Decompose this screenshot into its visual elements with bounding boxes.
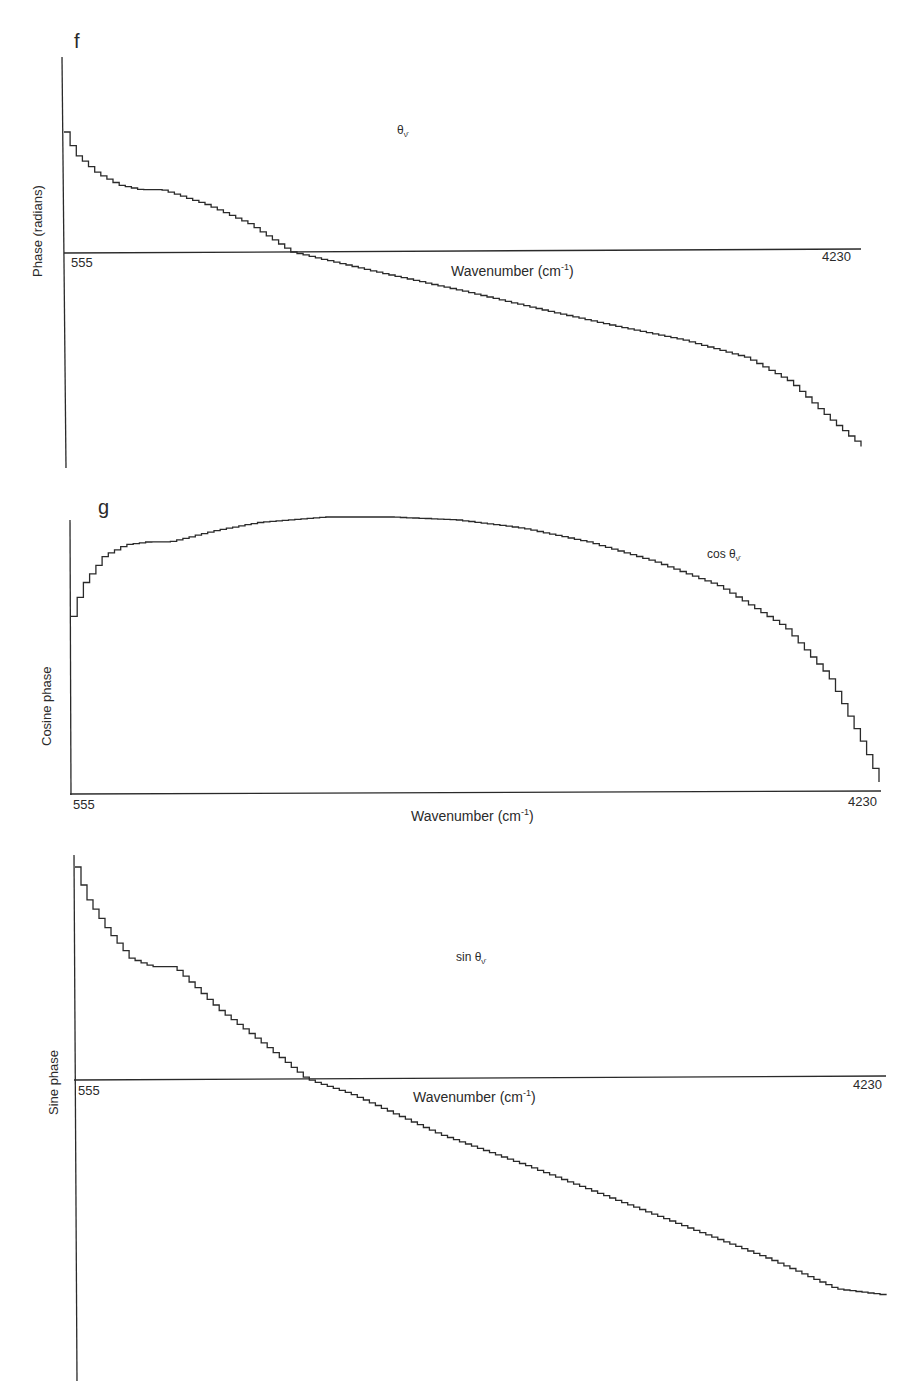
panel-f-y-axis-label: Phase (radians)	[30, 185, 45, 277]
panel-g-x-axis-label: Wavenumber (cm-1)	[411, 807, 534, 824]
figure-canvas	[0, 0, 923, 1394]
panel-g-y-axis	[70, 520, 71, 795]
panel-f-series-label: θν̄	[397, 123, 408, 139]
panel-g-series-label: cos θν̄	[707, 547, 740, 563]
series-label-main: θ	[397, 123, 404, 137]
panel-g-x-start-tick: 555	[73, 797, 95, 812]
panel-h-x-axis	[74, 1076, 886, 1080]
x-label-text: Wavenumber (cm	[411, 808, 521, 824]
x-label-text: Wavenumber (cm	[451, 263, 561, 279]
panel-h-sine-curve	[75, 867, 886, 1295]
panel-g-x-axis	[70, 791, 881, 794]
panel-g-cosine-curve	[71, 517, 879, 782]
panel-f-phase-curve	[64, 132, 861, 446]
panel-f-x-axis	[64, 249, 861, 253]
panel-h-series-label: sin θν̄	[456, 950, 485, 966]
panel-h-y-axis	[74, 855, 77, 1381]
series-label-sub: ν̄	[736, 554, 740, 563]
series-label-main: cos θ	[707, 547, 736, 561]
panel-h-y-axis-label: Sine phase	[46, 1050, 61, 1115]
x-label-close: )	[531, 1089, 536, 1105]
panel-g-letter: g	[98, 496, 109, 519]
panel-h-x-axis-label: Wavenumber (cm-1)	[413, 1088, 536, 1105]
x-label-close: )	[569, 263, 574, 279]
series-label-sub: ν̄	[404, 130, 408, 139]
panel-g-x-end-tick: 4230	[848, 794, 877, 809]
series-label-main: sin θ	[456, 950, 481, 964]
x-label-text: Wavenumber (cm	[413, 1089, 523, 1105]
x-label-sup: -1	[523, 1088, 531, 1098]
panel-f-x-start-tick: 555	[71, 255, 93, 270]
x-label-close: )	[529, 808, 534, 824]
panel-f-x-end-tick: 4230	[822, 249, 851, 264]
series-label-sub: ν̄	[481, 957, 485, 966]
panel-f-letter: f	[74, 30, 80, 53]
panel-f-x-axis-label: Wavenumber (cm-1)	[451, 262, 574, 279]
panel-h-x-end-tick: 4230	[853, 1077, 882, 1092]
panel-f-y-axis	[62, 57, 66, 468]
x-label-sup: -1	[561, 262, 569, 272]
panel-h-x-start-tick: 555	[78, 1083, 100, 1098]
panel-g-y-axis-label: Cosine phase	[39, 667, 54, 747]
x-label-sup: -1	[521, 807, 529, 817]
